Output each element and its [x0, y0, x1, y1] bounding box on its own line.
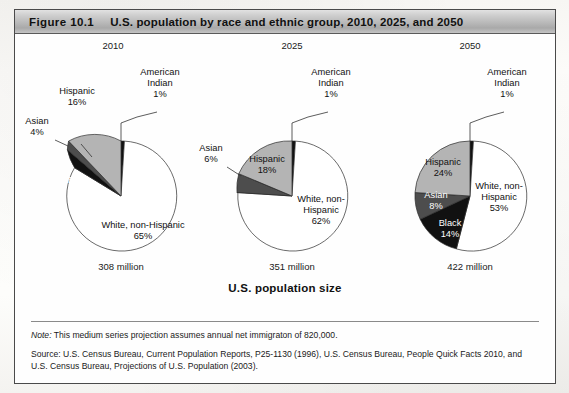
label-american-indian-2050-pct: 1%: [500, 89, 513, 99]
label-white-2050-line1: White, non-: [475, 181, 523, 191]
label-white-2025-pct: 62%: [312, 216, 331, 226]
leader-line-american-indian-2010: [121, 112, 157, 141]
label-asian-2025-pct: 6%: [204, 154, 217, 164]
leader-line-american-indian-2050: [470, 112, 504, 141]
pie-total-2025: 351 million: [269, 261, 314, 272]
label-american-indian-2050-line1: American: [487, 67, 526, 77]
source-italic-title: Current Population Reports: [146, 349, 250, 359]
label-hispanic-2010-pct: 16%: [68, 97, 87, 107]
label-white-2050-line2: Hispanic: [481, 192, 517, 202]
charts-area: 2010 American Indian 1% Hispan: [15, 34, 555, 321]
source-label: Source:: [31, 349, 61, 359]
figure-notes: Note: This medium series projection assu…: [31, 329, 543, 373]
pie-total-2050: 422 million: [447, 261, 492, 272]
leader-line-asian-2025: [227, 167, 241, 176]
label-black-2050: Black: [439, 218, 462, 228]
label-american-indian-2025-line1: American: [311, 67, 350, 77]
label-american-indian-2010-line1: American: [140, 67, 179, 77]
label-black-2010-pct: 13%: [70, 186, 89, 196]
pie-year-label-2025: 2025: [281, 40, 302, 51]
pie-chart-2025[interactable]: 2025 American Indian 1% Asian: [199, 40, 350, 272]
source-paragraph-line2: U.S. Census Bureau, Projections of U.S. …: [31, 360, 543, 373]
figure-title: U.S. population by race and ethnic group…: [110, 16, 463, 28]
label-hispanic-2050-pct: 24%: [434, 168, 453, 178]
label-hispanic-2010: Hispanic: [59, 86, 95, 96]
leader-line-american-indian-2025: [292, 112, 328, 141]
pie-charts-svg: 2010 American Indian 1% Hispan: [15, 34, 557, 321]
label-asian-2010: Asian: [25, 116, 48, 126]
pie-chart-2010[interactable]: 2010 American Indian 1% Hispan: [25, 40, 185, 272]
figure-number: Figure 10.1: [29, 16, 94, 28]
label-white-2025-line2: Hispanic: [303, 205, 339, 215]
label-asian-2010-pct: 4%: [30, 127, 43, 137]
label-asian-2025: Asian: [199, 143, 222, 153]
note-text: This medium series projection assumes an…: [52, 330, 338, 340]
leader-line-asian-2010: [55, 140, 68, 146]
label-white-2010-pct: 65%: [134, 231, 153, 241]
label-white-2050-pct: 53%: [490, 203, 509, 213]
source-text-a: U.S. Census Bureau,: [61, 349, 147, 359]
pie-chart-2050[interactable]: 2050 American Indian 1% Hispanic: [415, 40, 527, 272]
label-asian-2050: Asian: [424, 190, 447, 200]
label-american-indian-2025-pct: 1%: [324, 89, 337, 99]
note-label: Note:: [31, 330, 52, 340]
label-white-2010: White, non-Hispanic: [101, 220, 185, 230]
label-black-2025: Black: [244, 194, 267, 204]
source-paragraph-line1: Source: U.S. Census Bureau, Current Popu…: [31, 348, 543, 361]
axis-title: U.S. population size: [15, 282, 555, 294]
label-hispanic-2025: Hispanic: [249, 154, 285, 164]
pie-total-2010: 308 million: [98, 261, 143, 272]
source-text-b: , P25-1130 (1996), U.S. Census Bureau, P…: [250, 349, 522, 359]
label-hispanic-2050: Hispanic: [425, 157, 461, 167]
label-american-indian-2025-line2: Indian: [318, 78, 343, 88]
label-asian-2050-pct: 8%: [429, 201, 442, 211]
figure-container: Figure 10.1 U.S. population by race and …: [14, 9, 556, 384]
label-white-2025-line1: White, non-: [297, 194, 345, 204]
label-american-indian-2050-line2: Indian: [494, 78, 519, 88]
label-american-indian-2010-pct: 1%: [153, 89, 166, 99]
figure-header-bar: Figure 10.1 U.S. population by race and …: [15, 10, 555, 34]
label-black-2010: Black: [68, 175, 91, 185]
footer-divider: [31, 321, 539, 322]
pie-year-label-2010: 2010: [102, 40, 123, 51]
label-hispanic-2025-pct: 18%: [258, 165, 277, 175]
label-black-2025-pct: 13%: [246, 205, 265, 215]
label-american-indian-2010-line2: Indian: [147, 78, 172, 88]
note-paragraph: Note: This medium series projection assu…: [31, 329, 543, 342]
label-black-2050-pct: 14%: [441, 229, 460, 239]
pie-year-label-2050: 2050: [459, 40, 480, 51]
